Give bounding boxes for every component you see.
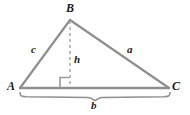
vertex-label-A: A bbox=[7, 80, 15, 92]
right-angle-marker bbox=[60, 78, 70, 88]
triangle-figure-svg bbox=[0, 0, 190, 115]
vertex-label-B: B bbox=[66, 2, 74, 14]
side-label-b: b bbox=[91, 100, 97, 111]
vertex-label-C: C bbox=[172, 80, 180, 92]
altitude-label-h: h bbox=[74, 54, 80, 65]
geometry-diagram: A B C c a b h bbox=[0, 0, 190, 115]
side-label-c: c bbox=[31, 44, 36, 55]
side-label-a: a bbox=[127, 44, 133, 55]
side-a-line bbox=[70, 20, 169, 88]
